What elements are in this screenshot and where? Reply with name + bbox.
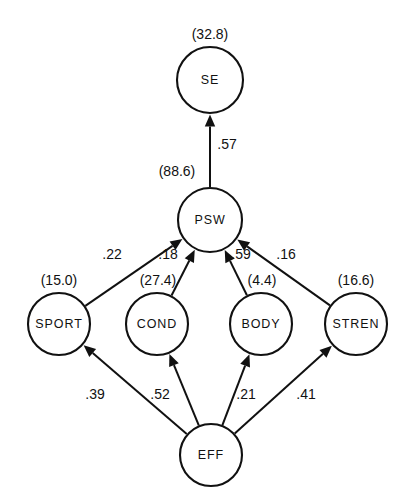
coefficient-label-sport-psw: .22 — [102, 246, 122, 262]
node-label-sport: SPORT — [35, 317, 82, 331]
coefficient-label-eff-cond: .52 — [150, 386, 170, 402]
coefficient-label-eff-body: .21 — [236, 386, 256, 402]
node-body[interactable]: BODY — [230, 293, 292, 355]
node-label-psw: PSW — [194, 213, 225, 227]
node-cond[interactable]: COND — [126, 293, 188, 355]
variance-label-cond: (27.4) — [140, 272, 177, 288]
variance-label-body: (4.4) — [248, 272, 277, 288]
path-diagram-canvas: SEPSWSPORTCONDBODYSTRENEFF (32.8)(88.6)(… — [0, 0, 408, 498]
coefficient-label-cond-psw: .18 — [158, 246, 178, 262]
coefficient-label-body-psw: .59 — [231, 246, 251, 262]
variance-label-se: (32.8) — [192, 26, 229, 42]
variance-label-sport: (15.0) — [41, 272, 78, 288]
edge-psw-to-se — [205, 115, 215, 188]
node-stren[interactable]: STREN — [325, 293, 387, 355]
node-sport[interactable]: SPORT — [28, 293, 90, 355]
variance-label-stren: (16.6) — [338, 272, 375, 288]
node-label-se: SE — [201, 73, 219, 87]
coefficient-label-eff-stren: .41 — [296, 386, 316, 402]
node-eff[interactable]: EFF — [180, 424, 242, 486]
coefficient-label-psw-se: .57 — [217, 136, 237, 152]
node-label-eff: EFF — [198, 448, 224, 462]
variance-label-psw: (88.6) — [159, 163, 196, 179]
edge-eff-to-cond — [169, 354, 199, 425]
path-diagram-figure: SEPSWSPORTCONDBODYSTRENEFF (32.8)(88.6)(… — [0, 0, 408, 498]
node-label-stren: STREN — [333, 317, 380, 331]
edges-group — [84, 115, 332, 435]
node-label-body: BODY — [241, 317, 280, 331]
coefficient-label-stren-psw: .16 — [276, 246, 296, 262]
arrow-head-icon — [205, 115, 215, 127]
coefficient-label-eff-sport: .39 — [85, 386, 105, 402]
node-label-cond: COND — [137, 317, 177, 331]
node-psw[interactable]: PSW — [178, 188, 242, 252]
node-se[interactable]: SE — [177, 47, 243, 113]
nodes-group: SEPSWSPORTCONDBODYSTRENEFF — [28, 47, 387, 486]
arrow-head-icon — [240, 354, 250, 367]
